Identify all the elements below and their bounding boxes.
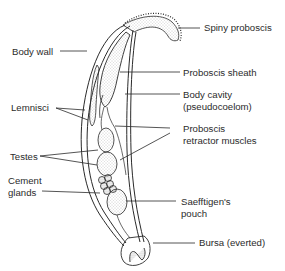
label-body-cavity: Body cavity (pseudocoelom) — [183, 89, 252, 112]
label-body-cavity-line1: Body cavity — [183, 89, 252, 101]
label-testes: Testes — [10, 151, 38, 163]
label-retractor-line1: Proboscis — [183, 123, 257, 135]
testis-upper — [98, 128, 114, 152]
label-saefftigens-line1: Saefftigen's — [181, 196, 231, 208]
saefftigens-pouch — [107, 189, 127, 215]
label-cement-line2: glands — [8, 187, 42, 199]
label-spiny-proboscis: Spiny proboscis — [204, 22, 272, 34]
label-body-cavity-line2: (pseudocoelom) — [183, 101, 252, 113]
label-retractor-line2: retractor muscles — [183, 135, 257, 147]
label-cement-line1: Cement — [8, 175, 42, 187]
label-saefftigens-line2: pouch — [181, 208, 231, 220]
label-saefftigens-pouch: Saefftigen's pouch — [181, 196, 231, 219]
bursa-everted — [121, 236, 150, 265]
testis-lower — [97, 152, 117, 176]
label-body-wall: Body wall — [12, 46, 53, 58]
label-bursa: Bursa (everted) — [199, 237, 265, 249]
label-lemnisci: Lemnisci — [11, 102, 49, 114]
label-cement-glands: Cement glands — [8, 175, 42, 198]
label-proboscis-sheath: Proboscis sheath — [183, 67, 257, 79]
label-proboscis-retractor-muscles: Proboscis retractor muscles — [183, 123, 257, 146]
